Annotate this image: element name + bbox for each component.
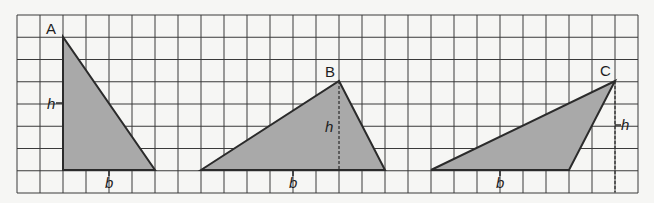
base-label-a: b [105,174,113,191]
vertex-label-c: C [600,62,611,79]
base-label-c: b [496,174,504,191]
height-label-b: h [325,118,333,135]
vertex-label-a: A [46,20,56,37]
triangle-grid-diagram: A B C h h h b b b [0,0,654,203]
height-label-a: h [47,95,55,112]
height-label-c: h [621,116,629,133]
base-label-b: b [289,174,297,191]
vertex-label-b: B [325,63,335,80]
